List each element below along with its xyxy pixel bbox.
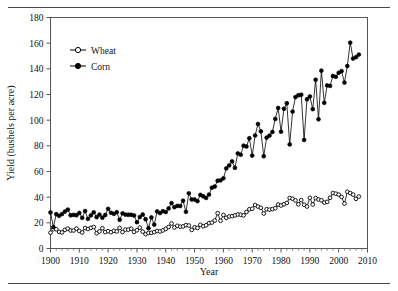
data-point	[92, 225, 96, 229]
data-point	[138, 226, 142, 230]
y-tick-label: 100	[29, 116, 44, 126]
y-tick-label: 120	[29, 90, 44, 100]
data-point	[322, 101, 326, 105]
data-point	[184, 210, 188, 214]
data-point	[317, 117, 321, 121]
data-point	[259, 206, 263, 210]
data-point	[115, 210, 119, 214]
data-point	[343, 202, 347, 206]
data-point	[328, 196, 332, 200]
data-point	[348, 41, 352, 45]
data-point	[135, 220, 139, 224]
x-tick-label: 1980	[272, 256, 291, 266]
data-point	[222, 176, 226, 180]
data-point	[103, 213, 107, 217]
data-point	[245, 145, 249, 149]
data-point	[319, 69, 323, 73]
x-tick-label: 1970	[243, 256, 262, 266]
filled-circle-icon	[75, 63, 80, 68]
chart-legend: Wheat Corn	[70, 46, 116, 72]
x-tick-label: 1920	[99, 256, 118, 266]
data-point	[147, 226, 151, 230]
data-point	[49, 231, 53, 235]
data-point	[256, 122, 260, 126]
data-point	[80, 216, 84, 220]
x-tick-label: 2000	[329, 256, 348, 266]
data-point	[77, 211, 81, 215]
data-point	[259, 129, 263, 133]
data-point	[294, 199, 298, 203]
data-point	[328, 84, 332, 88]
data-point	[273, 117, 277, 121]
data-point	[118, 218, 122, 222]
data-point	[149, 216, 153, 220]
x-tick-label: 1900	[41, 256, 60, 266]
data-point	[115, 230, 119, 234]
data-point	[288, 143, 292, 147]
yield-line-chart: 020406080100120140160180 190019101920193…	[0, 0, 398, 291]
data-point	[167, 207, 171, 211]
data-point	[305, 205, 309, 209]
data-point	[253, 134, 257, 138]
data-point	[49, 211, 53, 215]
y-tick-label: 160	[29, 39, 44, 49]
data-point	[279, 130, 283, 134]
data-point	[170, 222, 174, 226]
data-point	[343, 81, 347, 85]
legend-entry-wheat: Wheat	[70, 46, 116, 56]
data-point	[213, 185, 217, 189]
data-point	[170, 201, 174, 205]
data-point	[213, 219, 217, 223]
data-point	[308, 196, 312, 200]
data-point	[181, 199, 185, 203]
legend-entry-corn: Corn	[70, 62, 110, 72]
data-point	[152, 223, 156, 227]
data-point	[276, 106, 280, 110]
data-point	[196, 226, 200, 230]
data-point	[345, 64, 349, 68]
y-tick-label: 80	[34, 141, 44, 151]
data-point	[282, 107, 286, 111]
legend-label-wheat: Wheat	[91, 46, 116, 56]
y-tick-label: 140	[29, 64, 44, 74]
data-point	[219, 219, 223, 223]
x-tick-label: 1930	[127, 256, 146, 266]
data-point	[216, 211, 220, 215]
y-tick-label: 20	[34, 218, 44, 228]
data-point	[250, 207, 254, 211]
data-point	[299, 198, 303, 202]
data-point	[144, 217, 148, 221]
data-point	[311, 107, 315, 111]
y-axis-tick-labels: 020406080100120140160180	[29, 13, 44, 254]
y-tick-label: 0	[39, 244, 44, 254]
data-point	[299, 93, 303, 97]
data-point	[242, 214, 246, 218]
y-tick-label: 40	[34, 193, 44, 203]
x-tick-label: 1960	[214, 256, 233, 266]
x-tick-label: 1910	[70, 256, 89, 266]
data-point	[239, 153, 243, 157]
data-point	[314, 78, 318, 82]
data-point	[66, 208, 70, 212]
data-point	[92, 210, 96, 214]
data-point	[141, 213, 145, 217]
data-point	[262, 154, 266, 158]
data-point	[118, 226, 122, 230]
data-point	[357, 195, 361, 199]
data-point	[233, 166, 237, 170]
data-point	[101, 226, 105, 230]
data-point	[285, 101, 289, 105]
x-axis-ticks	[51, 249, 368, 253]
data-point	[268, 134, 272, 138]
data-point	[311, 203, 315, 207]
x-tick-label: 2010	[358, 256, 377, 266]
data-point	[187, 191, 191, 195]
figure-container: 020406080100120140160180 190019101920193…	[0, 0, 398, 291]
data-point	[132, 214, 136, 218]
data-point	[207, 193, 211, 197]
data-point	[296, 203, 300, 207]
data-point	[302, 138, 306, 142]
data-point	[164, 210, 168, 214]
data-point	[80, 231, 84, 235]
data-point	[325, 200, 329, 204]
